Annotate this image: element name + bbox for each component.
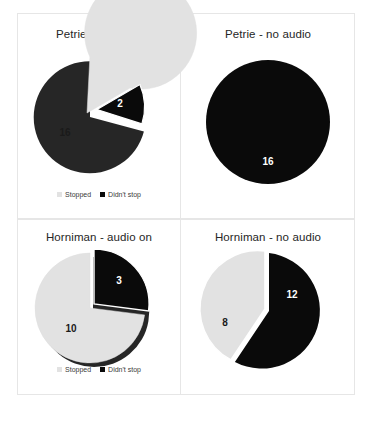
pie-svg	[201, 55, 335, 189]
pie-svg	[35, 57, 163, 177]
pie-slice-didnt-stop	[206, 60, 330, 184]
legend-item-didnt-stop: Didn't stop	[100, 191, 141, 198]
legend-label-stopped: Stopped	[65, 366, 91, 373]
legend-label-stopped: Stopped	[65, 191, 91, 198]
pie-svg	[203, 251, 333, 373]
chart-legend: Stopped Didn't stop	[17, 191, 181, 198]
legend-item-stopped: Stopped	[57, 191, 91, 198]
pie-svg	[35, 251, 165, 367]
pie-petrie-no-audio: 16	[201, 55, 335, 189]
legend-item-stopped: Stopped	[57, 366, 91, 373]
legend-item-didnt-stop: Didn't stop	[100, 366, 141, 373]
chart-legend: Stopped Didn't stop	[17, 366, 181, 373]
legend-label-didnt-stop: Didn't stop	[108, 191, 141, 198]
legend-label-didnt-stop: Didn't stop	[108, 366, 141, 373]
legend-swatch-stopped-icon	[57, 367, 62, 372]
pie-chart-figure: Petrie - audio on 16 2 Stopped Didn't st…	[0, 0, 372, 421]
pie-petrie-audio-on: 16 2	[35, 57, 163, 177]
chart-title: Horniman - audio on	[17, 231, 181, 243]
chart-panel-petrie-no-audio: Petrie - no audio 16	[181, 13, 355, 219]
chart-title: Petrie - no audio	[181, 28, 355, 40]
pie-horniman-no-audio: 8 12	[203, 251, 333, 373]
legend-swatch-didnt-stop-icon	[100, 192, 105, 197]
chart-title: Horniman - no audio	[181, 231, 355, 243]
chart-panel-petrie-audio-on: Petrie - audio on 16 2 Stopped Didn't st…	[17, 13, 181, 219]
legend-swatch-didnt-stop-icon	[100, 367, 105, 372]
legend-swatch-stopped-icon	[57, 192, 62, 197]
chart-panel-horniman-no-audio: Horniman - no audio 8 12	[181, 219, 355, 395]
chart-panel-horniman-audio-on: Horniman - audio on 10 3 Stopped Didn't …	[17, 219, 181, 395]
pie-horniman-audio-on: 10 3	[35, 251, 165, 367]
pie-slice-didnt-stop	[94, 249, 149, 311]
